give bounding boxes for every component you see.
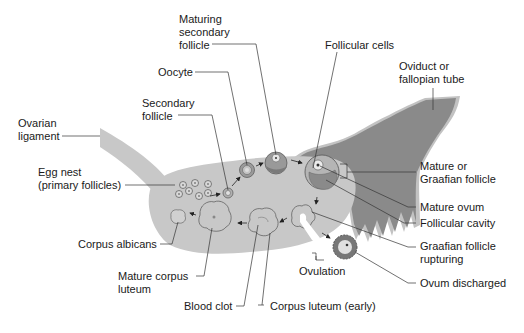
- ovum-discharged-shape: [333, 235, 357, 259]
- label-line: Ovarian: [18, 117, 60, 130]
- corpus-luteum-early-shape: [248, 208, 278, 236]
- label-line: follicle: [142, 110, 195, 123]
- ovary-diagram: Maturing secondary follicle Oocyte Folli…: [0, 0, 524, 333]
- label-line: Secondary: [142, 97, 195, 110]
- label-ovarian-ligament: Ovarian ligament: [18, 117, 60, 143]
- label-line: follicle: [179, 39, 230, 52]
- mature-corpus-luteum-shape: [199, 201, 231, 231]
- label-mature-corpus-luteum: Mature corpus luteum: [118, 270, 188, 296]
- label-line: ligament: [18, 130, 60, 143]
- label-line: luteum: [118, 283, 188, 296]
- label-graafian-follicle-rupturing: Graafian follicle rupturing: [420, 240, 496, 266]
- label-mature-ovum: Mature ovum: [420, 201, 484, 214]
- label-follicular-cells: Follicular cells: [325, 39, 394, 52]
- label-line: Mature corpus: [118, 270, 188, 283]
- maturing-follicle-shape: [265, 152, 287, 174]
- label-line: (primary follicles): [38, 179, 121, 192]
- label-mature-graafian-follicle: Mature or Graafian follicle: [420, 160, 496, 186]
- corpus-albicans-shape: [171, 210, 186, 224]
- label-oocyte: Oocyte: [158, 66, 193, 79]
- label-corpus-albicans: Corpus albicans: [78, 238, 157, 251]
- label-follicular-cavity: Follicular cavity: [420, 217, 495, 230]
- label-blood-clot: Blood clot: [184, 300, 232, 313]
- label-line: secondary: [179, 26, 230, 39]
- label-line: rupturing: [420, 253, 496, 266]
- label-oviduct: Oviduct or fallopian tube: [399, 60, 464, 86]
- label-ovum-discharged: Ovum discharged: [420, 277, 506, 290]
- label-ovulation: Ovulation: [299, 265, 345, 278]
- label-maturing-secondary-follicle: Maturing secondary follicle: [179, 13, 230, 52]
- label-line: Mature or: [420, 160, 496, 173]
- label-line: fallopian tube: [399, 73, 464, 86]
- label-secondary-follicle: Secondary follicle: [142, 97, 195, 123]
- label-line: Graafian follicle: [420, 240, 496, 253]
- label-corpus-luteum-early: Corpus luteum (early): [270, 300, 376, 313]
- label-line: Oviduct or: [399, 60, 464, 73]
- label-line: Maturing: [179, 13, 230, 26]
- label-line: Graafian follicle: [420, 173, 496, 186]
- label-egg-nest: Egg nest (primary follicles): [38, 166, 121, 192]
- label-line: Egg nest: [38, 166, 121, 179]
